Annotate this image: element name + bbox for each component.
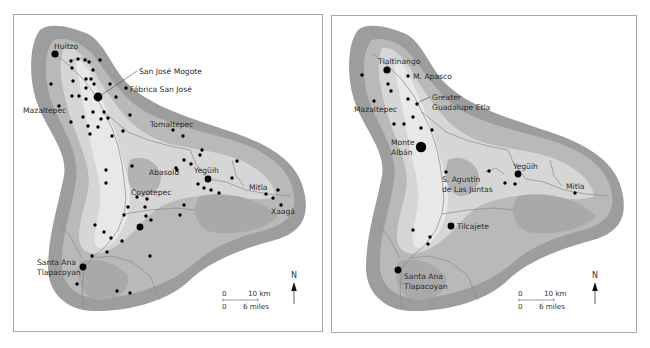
- place-label: Guadalupe Etla: [432, 103, 490, 112]
- site-marker-small: [84, 97, 87, 100]
- site-marker-small: [110, 134, 113, 137]
- site-marker-small: [98, 58, 101, 61]
- site-marker-small: [130, 164, 133, 167]
- place-label: Tomaltepec: [149, 120, 193, 129]
- site-marker-large: [416, 142, 426, 152]
- site-marker-large: [395, 267, 402, 274]
- site-marker-small: [386, 82, 389, 85]
- site-marker-small: [402, 122, 405, 125]
- site-marker-small: [360, 73, 363, 76]
- site-marker-small: [392, 122, 395, 125]
- site-marker-small: [128, 113, 131, 116]
- place-label: Tilcajete: [456, 222, 489, 231]
- site-marker-small: [276, 188, 279, 191]
- site-marker-small: [198, 153, 201, 156]
- site-marker-small: [200, 148, 203, 151]
- site-marker-small: [114, 95, 117, 98]
- site-marker-small: [90, 254, 93, 257]
- site-marker-small: [209, 188, 212, 191]
- place-label: Tlapacoyan: [403, 282, 448, 291]
- site-marker-small: [91, 110, 94, 113]
- place-label: Mitla: [566, 182, 584, 191]
- site-marker-small: [181, 134, 184, 137]
- site-marker-small: [92, 82, 95, 85]
- site-marker-small: [411, 115, 414, 118]
- site-marker-small: [88, 132, 91, 135]
- scale-mi-label: 6 miles: [243, 302, 269, 311]
- site-marker-small: [108, 82, 111, 85]
- place-label: San José Mogote: [139, 67, 202, 76]
- place-label: Santa Ana: [37, 258, 76, 267]
- site-marker-small: [128, 291, 131, 294]
- place-label: Fábrica San José: [130, 85, 192, 94]
- scale-bar: 010 km06 miles: [222, 289, 271, 311]
- place-label: Yegüih: [512, 162, 538, 171]
- site-marker-small: [124, 86, 127, 89]
- site-marker-small: [144, 214, 147, 217]
- place-label: Xaagá: [271, 207, 295, 216]
- site-marker-small: [145, 197, 148, 200]
- scale-km-label: 10 km: [544, 289, 567, 298]
- scale-km-zero: 0: [222, 289, 227, 298]
- site-marker-small: [102, 230, 105, 233]
- site-marker-small: [87, 60, 90, 63]
- place-label: Tlaltinango: [377, 57, 421, 66]
- place-label: Albán: [391, 148, 413, 157]
- site-marker-small: [419, 126, 422, 129]
- place-label: M. Apasco: [413, 72, 452, 81]
- site-marker-small: [196, 182, 199, 185]
- site-marker-small: [122, 213, 125, 216]
- site-marker-small: [235, 159, 238, 162]
- site-marker-small: [120, 239, 123, 242]
- site-marker-small: [81, 115, 84, 118]
- valley-of-oaxaca-maps: HuitzoSan José MogoteFábrica San JoséMaz…: [0, 0, 650, 348]
- site-marker-small: [428, 235, 431, 238]
- site-marker-small: [444, 170, 447, 173]
- scale-mi-zero: 0: [222, 302, 227, 311]
- site-marker-small: [230, 176, 233, 179]
- site-marker-small: [271, 196, 274, 199]
- site-marker-large: [94, 93, 103, 102]
- site-marker-small: [77, 94, 80, 97]
- site-marker-small: [69, 59, 72, 62]
- site-marker-small: [91, 68, 94, 71]
- place-label: Mitla: [249, 183, 267, 192]
- site-marker-small: [217, 191, 220, 194]
- place-label: Abasolo: [149, 168, 179, 177]
- site-marker-large: [383, 66, 390, 73]
- site-marker-small: [75, 282, 78, 285]
- site-marker-small: [406, 97, 409, 100]
- site-marker-small: [76, 57, 79, 60]
- scale-mi-label: 6 miles: [539, 302, 565, 311]
- site-marker-small: [71, 79, 74, 82]
- site-marker-small: [430, 128, 433, 131]
- site-marker-small: [102, 110, 105, 113]
- site-marker-small: [182, 203, 185, 206]
- north-label: N: [592, 271, 598, 280]
- scale-km-zero: 0: [518, 289, 523, 298]
- site-marker-small: [93, 223, 96, 226]
- site-marker-small: [149, 218, 152, 221]
- place-label: Huitzo: [54, 42, 79, 51]
- site-marker-small: [49, 82, 52, 85]
- site-marker-small: [148, 254, 151, 257]
- site-marker-small: [426, 242, 429, 245]
- north-arrow-icon: N: [291, 271, 297, 304]
- site-marker-small: [513, 182, 516, 185]
- site-marker-small: [415, 102, 418, 105]
- place-label: Monte: [391, 138, 415, 147]
- site-marker-small: [104, 181, 107, 184]
- site-marker-small: [189, 162, 192, 165]
- site-marker-small: [389, 89, 392, 92]
- site-marker-small: [109, 236, 112, 239]
- site-marker-small: [84, 86, 87, 89]
- site-marker-small: [83, 58, 86, 61]
- site-marker-small: [104, 168, 107, 171]
- site-marker-small: [89, 77, 92, 80]
- place-label: Santa Ana: [404, 272, 443, 281]
- site-marker-large: [51, 50, 58, 57]
- site-marker-small: [121, 129, 124, 132]
- site-marker-small: [69, 120, 72, 123]
- scale-km-label: 10 km: [248, 289, 271, 298]
- site-marker-large: [515, 171, 522, 178]
